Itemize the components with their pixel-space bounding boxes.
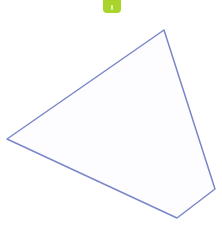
quadrilateral-shape[interactable]	[7, 30, 215, 218]
diagram-canvas	[0, 0, 222, 225]
